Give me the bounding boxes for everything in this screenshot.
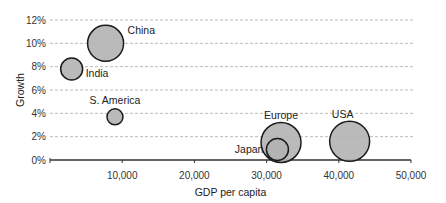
x-tick-label: 30,000 (251, 170, 282, 181)
bubble-label-india: India (86, 67, 109, 79)
bubble-japan (266, 139, 288, 161)
bubble-label-usa: USA (332, 108, 354, 120)
x-tick-label: 40,000 (324, 170, 355, 181)
x-axis-title: GDP per capita (195, 186, 267, 198)
x-tick-label: 20,000 (179, 170, 210, 181)
y-tick-label: 8% (32, 61, 47, 72)
bubble-label-china: China (128, 24, 156, 36)
bubble-label-japan: Japan (235, 143, 264, 155)
x-tick-label: 10,000 (107, 170, 138, 181)
x-axis-ticks: 10,00020,00030,00040,00050,000 (50, 158, 427, 181)
y-tick-label: 12% (26, 15, 46, 26)
y-axis-title: Growth (14, 73, 26, 107)
bubble-label-europe: Europe (264, 109, 298, 121)
y-tick-label: 0% (32, 155, 47, 166)
bubble-india (61, 58, 83, 80)
y-tick-label: 4% (32, 108, 47, 119)
bubble-chart: 0%2%4%6%8%10%12% 10,00020,00030,00040,00… (0, 0, 446, 203)
bubble-s-america (107, 109, 123, 125)
bubble-usa (330, 121, 370, 161)
y-axis-ticks: 0%2%4%6%8%10%12% (26, 15, 46, 166)
x-tick-label: 50,000 (396, 170, 427, 181)
bubbles: ChinaIndiaS. AmericaEuropeJapanUSA (61, 24, 370, 162)
bubble-china (88, 25, 124, 61)
y-tick-label: 2% (32, 131, 47, 142)
y-tick-label: 6% (32, 85, 47, 96)
bubble-label-s-america: S. America (90, 94, 141, 106)
y-tick-label: 10% (26, 38, 46, 49)
